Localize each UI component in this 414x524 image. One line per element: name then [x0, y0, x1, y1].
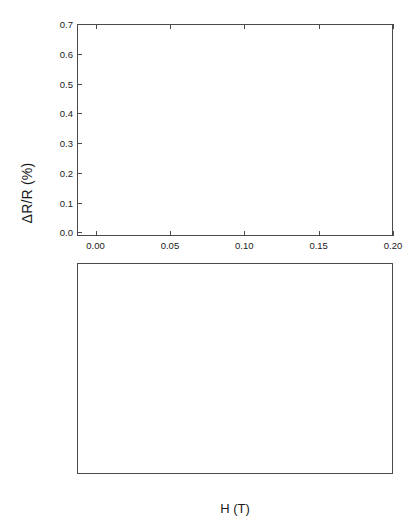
top-y-tick [77, 113, 82, 114]
top-y-tick [77, 84, 82, 85]
top-x-tick [393, 231, 394, 236]
top-x-tick-label: 0.15 [309, 240, 328, 251]
top-x-tick-label: 0.05 [161, 240, 180, 251]
top-y-tick-label: 0.0 [47, 227, 73, 238]
top-x-tick-label: 0.00 [86, 240, 105, 251]
top-x-tick [96, 24, 97, 29]
top-x-tick-label: 0.20 [384, 240, 403, 251]
top-y-tick [77, 173, 82, 174]
x-axis-label: H (T) [77, 501, 393, 516]
top-plot-area [77, 24, 393, 236]
top-x-tick [244, 24, 245, 29]
top-x-tick-label: 0.10 [235, 240, 254, 251]
top-y-tick [77, 54, 82, 55]
top-y-tick-label: 0.2 [47, 167, 73, 178]
top-x-tick [170, 24, 171, 29]
top-x-tick [170, 231, 171, 236]
top-y-tick [77, 143, 82, 144]
top-x-tick [319, 24, 320, 29]
top-x-tick [319, 231, 320, 236]
top-y-tick-label: 0.3 [47, 138, 73, 149]
top-y-tick-label: 0.6 [47, 48, 73, 59]
top-y-tick-label: 0.4 [47, 108, 73, 119]
bottom-plot-area [77, 263, 393, 474]
top-y-tick [77, 24, 82, 25]
top-y-tick-label: 0.7 [47, 19, 73, 30]
top-data-curves [78, 25, 393, 236]
top-panel: 0.000.050.100.150.200.00.10.20.30.40.50.… [0, 0, 414, 258]
top-y-tick-label: 0.5 [47, 78, 73, 89]
top-x-tick [96, 231, 97, 236]
top-x-tick [393, 24, 394, 29]
top-y-tick [77, 232, 82, 233]
bottom-data-curves [78, 264, 393, 474]
figure-magnetoresistance: ΔR/R (%) 0.000.050.100.150.200.00.10.20.… [0, 0, 414, 524]
top-y-tick-label: 0.1 [47, 197, 73, 208]
bottom-panel: H (T) [0, 258, 414, 524]
top-x-tick [244, 231, 245, 236]
top-y-tick [77, 203, 82, 204]
